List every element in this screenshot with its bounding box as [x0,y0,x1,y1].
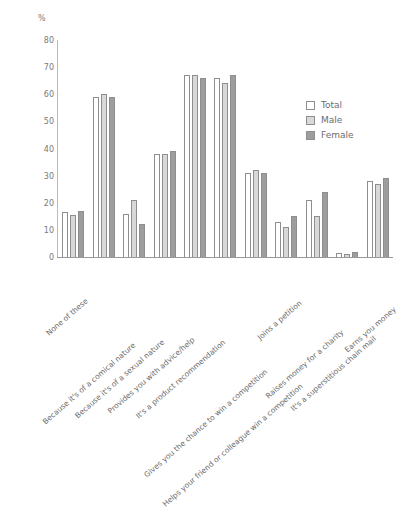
x-tick-label: Joins a petition [256,299,304,342]
x-tick-label: None of these [45,296,90,337]
legend-label: Total [321,100,342,110]
chart-legend: TotalMaleFemale [306,100,354,140]
legend-label: Male [321,115,342,125]
legend-item-female: Female [306,130,354,140]
legend-item-total: Total [306,100,354,110]
legend-swatch-icon [306,131,315,140]
x-tick-label: Raises money for a charity [264,328,346,401]
x-tick-label: It's a superstitious chain mail [289,334,378,413]
legend-swatch-icon [306,101,315,110]
legend-label: Female [321,130,354,140]
legend-swatch-icon [306,116,315,125]
x-tick-label: Because it's of a comical nature [41,341,137,427]
legend-item-male: Male [306,115,354,125]
